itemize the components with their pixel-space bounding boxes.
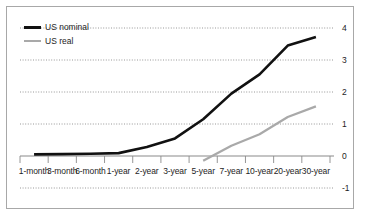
- legend-label-us-real: US real: [45, 36, 73, 46]
- x-axis-label-30-year: 30-year: [298, 166, 334, 176]
- y-axis-label: 4: [342, 23, 347, 33]
- y-axis-label: 3: [342, 55, 347, 65]
- y-axis-label: 2: [342, 87, 347, 97]
- x-axis-ticks: [20, 156, 330, 163]
- legend-swatch-us-nominal: [24, 26, 41, 29]
- series-lines: [34, 37, 316, 161]
- gridlines: [20, 28, 334, 188]
- y-axis-label: 1: [342, 119, 347, 129]
- series-line-us-real: [203, 106, 316, 160]
- legend-swatch-us-real: [24, 40, 41, 42]
- legend-label-us-nominal: US nominal: [45, 22, 89, 32]
- series-line-us-nominal: [34, 37, 316, 154]
- yield-curve-chart: [0, 0, 372, 224]
- y-axis-label: 0: [342, 151, 347, 161]
- y-axis-label: -1: [342, 183, 349, 193]
